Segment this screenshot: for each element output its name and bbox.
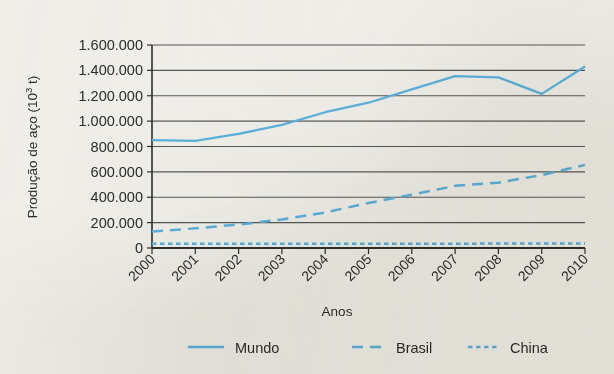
x-tick-label: 2008 <box>471 251 504 284</box>
x-tick-label: 2005 <box>341 251 374 284</box>
y-tick-label: 1.600.000 <box>78 37 143 53</box>
y-tick-label: 200.000 <box>91 215 143 231</box>
line-chart: 1.600.0001.400.0001.200.0001.000.000800.… <box>0 0 614 374</box>
x-tick-label: 2007 <box>428 251 461 284</box>
y-axis-title-tail: t) <box>25 76 40 88</box>
x-tick-label: 2002 <box>211 251 244 284</box>
y-tick-label: 600.000 <box>91 164 143 180</box>
series-line-brasil <box>152 165 585 232</box>
y-tick-label: 1.400.000 <box>78 62 143 78</box>
legend: MundoBrasilChina <box>188 340 549 356</box>
y-tick-label: 1.000.000 <box>78 113 143 129</box>
y-tick-label: 1.200.000 <box>78 88 143 104</box>
x-tick-label: 2003 <box>255 251 288 284</box>
legend-label-china: China <box>510 340 549 356</box>
series-line-mundo <box>152 67 585 141</box>
x-tick-label: 2000 <box>125 251 158 284</box>
y-tick-label: 800.000 <box>91 139 143 155</box>
y-axis-title: Produção de aço (103 t) <box>23 76 40 219</box>
y-tick-label: 400.000 <box>91 189 143 205</box>
legend-label-mundo: Mundo <box>235 340 279 356</box>
x-tick-label: 2004 <box>298 251 331 284</box>
y-tick-label: 0 <box>135 240 143 256</box>
legend-label-brasil: Brasil <box>396 340 432 356</box>
y-axis-title-base: Produção de aço (10 <box>25 93 40 218</box>
x-tick-label: 2001 <box>168 251 201 284</box>
x-tick-label: 2006 <box>385 251 418 284</box>
y-gridlines: 1.600.0001.400.0001.200.0001.000.000800.… <box>78 37 585 256</box>
x-axis-title: Anos <box>322 304 353 319</box>
x-tick-label: 2009 <box>514 251 547 284</box>
x-ticks: 2000200120022003200420052006200720082009… <box>125 248 591 284</box>
x-tick-label: 2010 <box>558 251 591 284</box>
chart-figure: 1.600.0001.400.0001.200.0001.000.000800.… <box>0 0 614 374</box>
